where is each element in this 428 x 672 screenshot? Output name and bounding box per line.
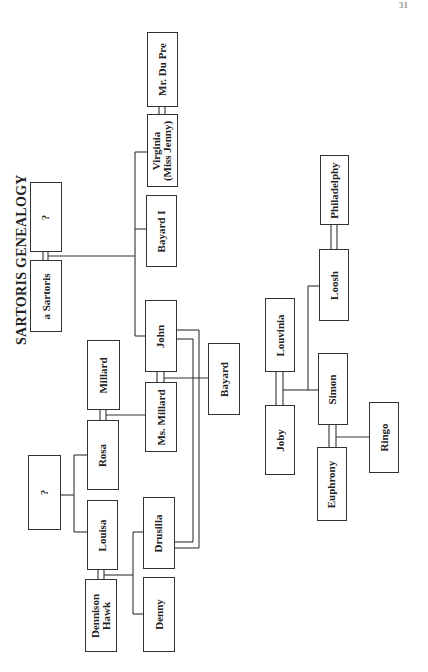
node-loosh: Loosh xyxy=(319,249,349,321)
node-label: ? xyxy=(39,490,50,496)
node-label: Denny xyxy=(154,599,165,630)
node-john: John xyxy=(145,300,177,372)
node-label: Joby xyxy=(275,429,286,452)
node-label: a Sartoris xyxy=(41,273,52,319)
node-drusilla: Drusilla xyxy=(143,497,175,569)
node-label: Bayard xyxy=(219,362,230,397)
node-label: ? xyxy=(41,214,52,220)
node-millard: Millard xyxy=(87,340,120,410)
node-ringo: Ringo xyxy=(369,402,399,473)
node-joby: Joby xyxy=(265,405,295,475)
node-label: Philadelphy xyxy=(329,162,340,218)
node-denny: Denny xyxy=(143,577,175,652)
node-label: Loosh xyxy=(329,271,340,300)
diagram-title: SARTORIS GENEALOGY xyxy=(14,174,30,345)
node-ms-millard: Ms. Millard xyxy=(145,382,177,452)
node-label: Mr. Du Pre xyxy=(157,43,168,96)
node-philadelphy: Philadelphy xyxy=(320,155,349,225)
node-label: Drusilla xyxy=(154,514,165,552)
node-label: John xyxy=(156,324,167,347)
node-a-sartoris: a Sartoris xyxy=(30,260,62,332)
node-rosa: Rosa xyxy=(87,420,119,490)
node-label: Virginia (Miss Jenny) xyxy=(152,120,174,180)
node-label: Ms. Millard xyxy=(156,389,167,445)
node-simon: Simon xyxy=(318,353,348,425)
node-label: Euphrony xyxy=(327,460,338,508)
node-louvinia: Louvinia xyxy=(265,298,295,372)
node-label: Louvinia xyxy=(275,314,286,356)
connector-lines xyxy=(0,0,428,672)
node-label: Millard xyxy=(98,357,109,393)
node-label: Bayard I xyxy=(156,210,167,252)
node-label: Simon xyxy=(328,374,339,404)
node-bayard-i: Bayard I xyxy=(146,195,177,267)
node-label: Ringo xyxy=(379,423,390,451)
node-label-line2: Hawk xyxy=(100,601,112,629)
node-dennison-hawk: Dennison Hawk xyxy=(85,579,117,652)
node-mr-du-pre: Mr. Du Pre xyxy=(147,32,178,107)
node-label-line2: (Miss Jenny) xyxy=(162,120,174,180)
node-label: Dennison Hawk xyxy=(90,593,112,637)
node-euphrony: Euphrony xyxy=(317,447,347,521)
node-louisa: Louisa xyxy=(87,500,118,570)
node-label: Rosa xyxy=(97,443,108,466)
node-bayard: Bayard xyxy=(208,343,240,415)
node-unknown-parent: ? xyxy=(28,455,61,530)
page-number: 31 xyxy=(399,0,408,10)
node-virginia: Virginia (Miss Jenny) xyxy=(147,114,178,187)
node-unknown-ancestor: ? xyxy=(30,182,62,252)
node-label: Louisa xyxy=(97,519,108,551)
